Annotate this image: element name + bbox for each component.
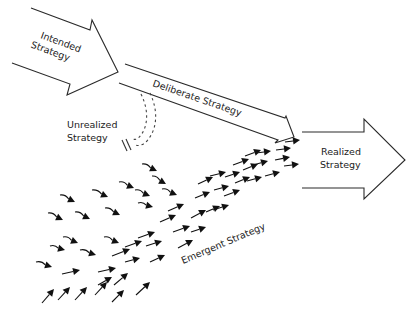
emergent-arrow — [92, 190, 108, 198]
emergent-arrow — [114, 273, 128, 285]
unrealized-strategy-label: Unrealized Strategy — [67, 119, 121, 143]
emergent-arrow — [247, 175, 262, 182]
emergent-arrow — [50, 245, 65, 252]
emergent-arrow — [58, 287, 70, 300]
emergent-arrow — [233, 158, 249, 165]
emergent-arrow — [210, 170, 226, 177]
unrealized-strategy-branch: Unrealized Strategy — [67, 93, 156, 151]
emergent-arrow — [75, 287, 87, 300]
unrealized-dashed-path-inner — [133, 94, 147, 139]
emergent-arrow — [95, 282, 107, 295]
emergent-arrow — [191, 210, 206, 218]
emergent-arrow — [112, 290, 124, 302]
emergent-arrow — [135, 190, 150, 197]
emergent-arrow — [80, 249, 96, 256]
emergent-arrow — [125, 256, 140, 263]
emergent-arrow — [138, 231, 155, 238]
emergent-arrow — [162, 189, 177, 196]
deliberate-strategy-label: Deliberate Strategy — [151, 77, 243, 118]
deliberate-strategy-arrow: Deliberate Strategy — [119, 64, 294, 143]
emergent-arrow — [112, 248, 130, 256]
realized-strategy-arrow: Realized Strategy — [302, 119, 405, 199]
break-mark-2 — [126, 139, 131, 150]
emergent-arrow — [198, 177, 213, 184]
emergent-arrow — [98, 266, 116, 273]
emergent-arrow — [125, 240, 142, 247]
emergent-arrow — [191, 226, 206, 233]
emergent-arrow — [142, 164, 157, 171]
emergent-arrow — [168, 204, 184, 211]
emergent-arrow — [275, 155, 290, 162]
emergent-arrow — [138, 202, 153, 209]
emergent-arrow — [285, 137, 300, 144]
emergent-arrow — [160, 215, 176, 222]
emergent-arrow — [136, 282, 150, 295]
emergent-arrow — [63, 237, 78, 244]
intended-strategy-arrow: Intended Strategy — [12, 8, 118, 95]
emergent-arrow — [75, 212, 90, 219]
emergent-arrow — [284, 161, 299, 168]
strategy-diagram: Intended Strategy Deliberate Strategy Un… — [0, 0, 416, 316]
emergent-arrow — [150, 255, 165, 262]
emergent-arrow — [225, 171, 240, 178]
emergent-arrow-field — [36, 137, 300, 303]
emergent-arrow — [60, 195, 75, 202]
emergent-arrow — [178, 240, 193, 248]
emergent-arrow — [173, 225, 190, 232]
emergent-arrow — [48, 213, 63, 220]
emergent-arrow — [104, 237, 119, 244]
emergent-arrow — [146, 240, 162, 247]
emergent-arrow — [224, 189, 240, 196]
realized-strategy-label: Realized Strategy — [320, 146, 364, 170]
emergent-arrow — [265, 170, 280, 177]
unrealized-dashed-path-outer — [135, 93, 156, 146]
emergent-arrow — [235, 176, 250, 183]
emergent-arrow — [119, 182, 134, 189]
emergent-arrow — [105, 208, 120, 215]
intended-strategy-label: Intended Strategy — [30, 27, 86, 66]
emergent-arrow — [276, 145, 291, 152]
break-mark-1 — [122, 140, 127, 151]
emergent-arrow — [214, 184, 229, 191]
emergent-arrow — [36, 261, 52, 268]
emergent-arrow — [195, 191, 210, 198]
emergent-arrow — [62, 268, 80, 275]
emergent-arrow — [42, 289, 54, 303]
emergent-arrow — [152, 176, 166, 184]
emergent-strategy-label: Emergent Strategy — [179, 220, 267, 266]
